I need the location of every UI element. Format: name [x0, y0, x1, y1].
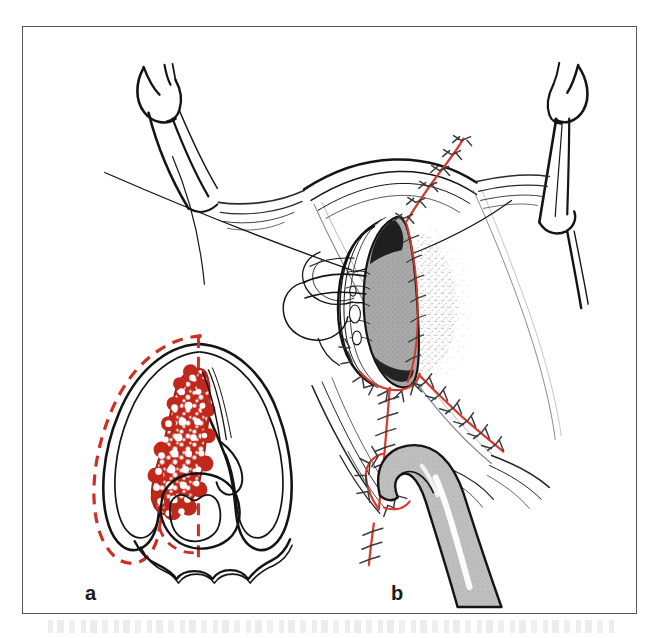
left-clavicle-shading	[218, 190, 304, 230]
retraction-thread	[105, 157, 352, 285]
suture-line-lateral	[412, 374, 504, 452]
panel-label-b: b	[391, 583, 403, 603]
figure-plate-frame: a b	[22, 26, 637, 614]
left-clavicle	[137, 64, 217, 212]
panel-label-a: a	[85, 583, 96, 603]
panel-a-group	[94, 336, 292, 583]
stipple-shading-outer	[426, 224, 474, 378]
figure-root: a b	[0, 0, 659, 638]
surgical-illustration	[23, 27, 636, 613]
pectoral-folds-left	[312, 378, 386, 514]
right-clavicle	[539, 63, 588, 308]
neck-contour	[304, 159, 476, 218]
panel-b-group	[105, 63, 588, 607]
suture-line-superior	[395, 136, 472, 224]
scan-bleed-artifact	[48, 620, 618, 633]
